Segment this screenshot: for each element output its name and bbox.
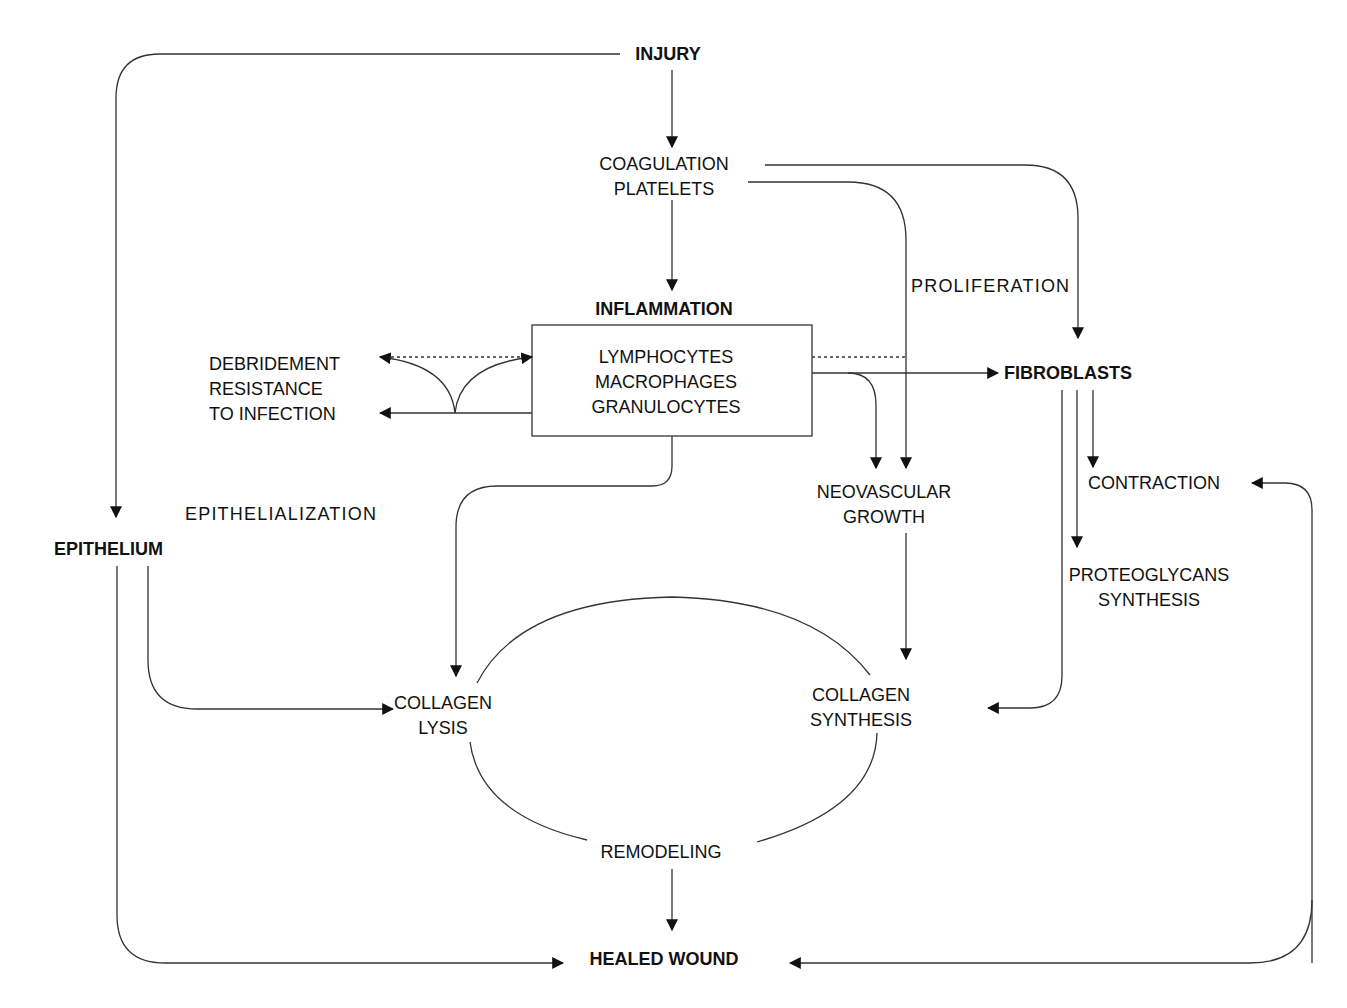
edge-healed-wound-contraction-loop (1252, 483, 1312, 963)
node-collagen-synthesis: COLLAGEN SYNTHESIS (810, 683, 912, 733)
node-inflammation-title: INFLAMMATION (595, 297, 733, 322)
edge-epithelium-to-healed-wound (117, 566, 563, 963)
proteoglycans-line-2: SYNTHESIS (1069, 588, 1230, 613)
node-collagen-lysis: COLLAGEN LYSIS (394, 691, 492, 741)
collagen-lysis-line-2: LYSIS (394, 716, 492, 741)
node-epithelium: EPITHELIUM (54, 537, 163, 562)
remodeling-cycle-right (757, 733, 877, 842)
edge-loop-to-healed-wound (790, 900, 1312, 963)
edge-coagulation-to-fibroblasts (765, 165, 1078, 338)
cell-lymphocytes: LYMPHOCYTES (591, 345, 740, 370)
remodeling-cycle-left (470, 742, 587, 840)
remodeling-cycle-top (477, 597, 870, 683)
cell-granulocytes: GRANULOCYTES (591, 395, 740, 420)
debridement-line-3: TO INFECTION (209, 402, 340, 427)
node-proteoglycans: PROTEOGLYCANS SYNTHESIS (1069, 563, 1230, 613)
label-epithelialization: EPITHELIALIZATION (185, 502, 377, 527)
node-injury: INJURY (635, 42, 700, 67)
node-inflammation-cells: LYMPHOCYTES MACROPHAGES GRANULOCYTES (591, 345, 740, 420)
node-fibroblasts: FIBROBLASTS (1004, 361, 1132, 386)
edge-epithelium-to-collagen-lysis (148, 566, 393, 709)
branch-curve-left (380, 357, 455, 413)
proteoglycans-line-1: PROTEOGLYCANS (1069, 563, 1230, 588)
edge-inflammation-to-neovascular (848, 373, 876, 468)
node-coagulation-line-1: COAGULATION (599, 152, 729, 177)
collagen-lysis-line-1: COLLAGEN (394, 691, 492, 716)
debridement-line-2: RESISTANCE (209, 377, 340, 402)
node-coagulation: COAGULATION PLATELETS (599, 152, 729, 202)
edge-inflammation-to-collagen-lysis (456, 436, 672, 676)
label-proliferation: PROLIFERATION (911, 274, 1070, 299)
collagen-synthesis-line-1: COLLAGEN (810, 683, 912, 708)
neovascular-line-2: GROWTH (817, 505, 952, 530)
collagen-synthesis-line-2: SYNTHESIS (810, 708, 912, 733)
node-neovascular: NEOVASCULAR GROWTH (817, 480, 952, 530)
neovascular-line-1: NEOVASCULAR (817, 480, 952, 505)
edge-injury-to-epithelium (116, 54, 620, 517)
branch-curve-right (455, 357, 532, 413)
debridement-line-1: DEBRIDEMENT (209, 352, 340, 377)
node-debridement: DEBRIDEMENT RESISTANCE TO INFECTION (209, 352, 340, 427)
node-healed-wound: HEALED WOUND (590, 947, 739, 972)
node-coagulation-line-2: PLATELETS (599, 177, 729, 202)
cell-macrophages: MACROPHAGES (591, 370, 740, 395)
node-remodeling: REMODELING (600, 840, 721, 865)
node-contraction: CONTRACTION (1088, 471, 1220, 496)
edge-fibroblasts-to-collagen-synthesis (988, 390, 1062, 708)
